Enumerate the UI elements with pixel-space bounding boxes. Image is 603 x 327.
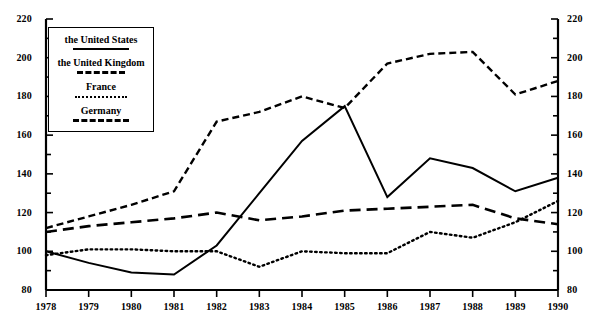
x-axis-tick-label: 1984 <box>282 301 322 312</box>
series-line-france <box>46 201 558 267</box>
chart-legend: the United Statesthe United KingdomFranc… <box>48 27 154 132</box>
y-axis-right-tick-label: 140 <box>567 168 597 179</box>
y-axis-right-tick-label: 100 <box>567 245 597 256</box>
legend-line-swatch-longdash <box>73 119 129 126</box>
y-axis-right-tick-label: 120 <box>567 207 597 218</box>
y-axis-right-tick-label: 180 <box>567 90 597 101</box>
y-axis-left-tick-label: 120 <box>6 207 32 218</box>
x-axis-tick-label: 1986 <box>367 301 407 312</box>
x-axis-tick-label: 1988 <box>453 301 493 312</box>
x-axis-tick-label: 1978 <box>26 301 66 312</box>
y-axis-left-tick-label: 100 <box>6 245 32 256</box>
x-axis-tick-label: 1989 <box>495 301 535 312</box>
y-axis-left-tick-label: 200 <box>6 52 32 63</box>
x-axis-tick-label: 1981 <box>154 301 194 312</box>
legend-item-label: France <box>86 81 116 93</box>
y-axis-left-tick-label: 220 <box>6 13 32 24</box>
legend-item-the-united-states: the United States <box>49 34 153 54</box>
y-axis-left-tick-label: 80 <box>6 284 32 295</box>
legend-line-swatch-dotted <box>75 96 127 102</box>
line-chart: 22020018016014012010080 2202001801601401… <box>0 0 603 327</box>
x-axis-tick-label: 1990 <box>538 301 578 312</box>
y-axis-right-tick-label: 80 <box>567 284 597 295</box>
x-axis-tick-label: 1985 <box>325 301 365 312</box>
y-axis-right-tick-label: 160 <box>567 129 597 140</box>
series-line-germany <box>46 205 558 232</box>
legend-item-france: France <box>49 81 153 102</box>
legend-item-the-united-kingdom: the United Kingdom <box>49 57 153 78</box>
x-axis-tick-label: 1979 <box>69 301 109 312</box>
y-axis-right-tick-label: 220 <box>567 13 597 24</box>
x-axis-tick-label: 1982 <box>197 301 237 312</box>
legend-item-label: the United Kingdom <box>57 57 144 69</box>
legend-item-label: Germany <box>81 105 122 117</box>
y-axis-left-tick-label: 180 <box>6 90 32 101</box>
legend-item-label: the United States <box>65 34 138 46</box>
legend-line-swatch-dashed <box>77 71 125 78</box>
x-axis-tick-label: 1983 <box>239 301 279 312</box>
y-axis-left-tick-label: 160 <box>6 129 32 140</box>
x-axis-tick-label: 1987 <box>410 301 450 312</box>
x-axis-tick-label: 1980 <box>111 301 151 312</box>
y-axis-right-tick-label: 200 <box>567 52 597 63</box>
y-axis-left-tick-label: 140 <box>6 168 32 179</box>
legend-line-swatch-solid <box>73 48 129 54</box>
legend-item-germany: Germany <box>49 105 153 126</box>
